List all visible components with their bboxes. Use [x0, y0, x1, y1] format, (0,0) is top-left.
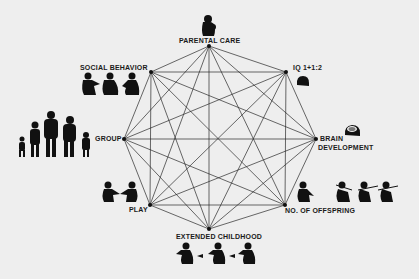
- head-icon: [297, 76, 309, 86]
- edge-iq-extended_childhood: [209, 72, 286, 229]
- edge-brain_development-play: [150, 139, 316, 205]
- hunters-with-spears-icon: [298, 182, 399, 203]
- label-group: GROUP: [95, 135, 122, 143]
- mother-with-infant-icon: [202, 15, 216, 36]
- edge-iq-no_of_offspring: [285, 72, 286, 205]
- label-extended-childhood: EXTENDED CHILDHOOD: [176, 233, 262, 241]
- two-figures-playing-icon: [103, 182, 138, 203]
- edge-play-social_behavior: [150, 72, 151, 205]
- node-brain_development: [314, 137, 318, 141]
- edge-extended_childhood-play: [150, 205, 209, 229]
- passing-figures-icon: [176, 243, 255, 265]
- node-social_behavior: [149, 70, 153, 74]
- edge-parental_care-play: [150, 46, 209, 205]
- label-play: PLAY: [129, 206, 148, 214]
- label-social-behavior: SOCIAL BEHAVIOR: [80, 64, 148, 72]
- edge-parental_care-social_behavior: [151, 46, 209, 72]
- edge-extended_childhood-social_behavior: [151, 72, 209, 229]
- edge-iq-group: [124, 72, 286, 139]
- primate-group-icon: [19, 111, 90, 157]
- brain-head-icon: [345, 125, 360, 136]
- node-play: [148, 203, 152, 207]
- edge-brain_development-social_behavior: [151, 72, 316, 139]
- label-parental-care: PARENTAL CARE: [179, 37, 240, 45]
- edge-parental_care-brain_development: [209, 46, 316, 139]
- edge-no_of_offspring-extended_childhood: [209, 205, 285, 229]
- edge-no_of_offspring-social_behavior: [151, 72, 285, 205]
- edge-no_of_offspring-group: [124, 139, 285, 205]
- edge-extended_childhood-group: [124, 139, 209, 229]
- edge-parental_care-no_of_offspring: [209, 46, 285, 205]
- label-no-of-offspring: NO. OF OFFSPRING: [285, 207, 355, 215]
- label-brain: BRAIN: [320, 135, 343, 143]
- label-iq: IQ 1+1:2: [293, 64, 322, 72]
- grooming-figures-icon: [82, 73, 139, 96]
- label-development: DEVELOPMENT: [318, 144, 373, 152]
- edge-parental_care-iq: [209, 46, 286, 72]
- node-iq: [284, 70, 288, 74]
- node-extended_childhood: [207, 227, 211, 231]
- node-group: [122, 137, 126, 141]
